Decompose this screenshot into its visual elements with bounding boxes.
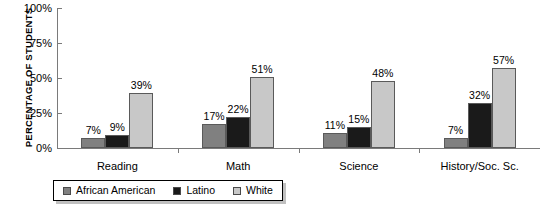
legend-swatch-icon — [63, 187, 71, 195]
y-axis-tick-label: 25% — [16, 108, 52, 119]
legend-item[interactable]: African American — [63, 185, 155, 196]
y-axis-tick-label: 100% — [16, 3, 52, 14]
bar-value-label: 32% — [469, 90, 490, 101]
bar-value-label: 11% — [325, 120, 345, 131]
bar-value-label: 17% — [204, 111, 225, 122]
x-axis-tick-mark — [299, 149, 300, 153]
plot-area: 7%9%39%Reading17%22%51%Math11%15%48%Scie… — [57, 8, 540, 148]
bar[interactable] — [129, 93, 153, 148]
bar[interactable] — [81, 138, 105, 148]
bar-value-label: 22% — [228, 104, 249, 115]
bar-value-label: 15% — [348, 114, 369, 125]
y-axis-tick-mark — [58, 8, 62, 9]
bar[interactable] — [371, 81, 395, 148]
chart-legend: African AmericanLatinoWhite — [53, 180, 283, 201]
bar[interactable] — [226, 117, 250, 148]
bar-value-label: 51% — [252, 64, 273, 75]
bar-value-label: 48% — [372, 68, 393, 79]
y-axis-tick-mark — [58, 113, 62, 114]
x-axis-category-label: Reading — [97, 160, 138, 172]
bar-value-label: 7% — [448, 125, 463, 136]
bar[interactable] — [468, 103, 492, 148]
x-axis-category-label: Math — [226, 160, 250, 172]
legend-label: White — [246, 185, 273, 196]
y-axis-tick-label: 75% — [16, 38, 52, 49]
legend-swatch-icon — [173, 187, 181, 195]
x-axis-category-label: Science — [339, 160, 378, 172]
legend-label: African American — [76, 185, 155, 196]
bar[interactable] — [347, 127, 371, 148]
y-axis-tick-mark — [58, 148, 62, 149]
x-axis-tick-mark — [419, 149, 420, 153]
bar-group: 11%15%48% — [323, 8, 395, 148]
bar[interactable] — [323, 133, 347, 148]
bar-chart: PERCENTAGE OF STUDENTS 0%25%50%75%100% 7… — [0, 0, 545, 215]
legend-item[interactable]: White — [233, 185, 273, 196]
x-axis-tick-mark — [178, 149, 179, 153]
bar-group: 17%22%51% — [202, 8, 274, 148]
y-axis-tick-labels: 0%25%50%75%100% — [12, 0, 52, 215]
legend-swatch-icon — [233, 187, 241, 195]
bar-value-label: 39% — [131, 80, 152, 91]
bar[interactable] — [444, 138, 468, 148]
legend-item[interactable]: Latino — [173, 185, 215, 196]
bar[interactable] — [250, 77, 274, 148]
bar-group: 7%9%39% — [81, 8, 153, 148]
bar-group: 7%32%57% — [444, 8, 516, 148]
y-axis-tick-mark — [58, 78, 62, 79]
y-axis-tick-label: 50% — [16, 73, 52, 84]
legend-label: Latino — [186, 185, 215, 196]
bar[interactable] — [492, 68, 516, 148]
bar-value-label: 57% — [493, 55, 514, 66]
y-axis-tick-mark — [58, 43, 62, 44]
bar[interactable] — [202, 124, 226, 148]
bar-value-label: 9% — [110, 122, 125, 133]
y-axis-tick-label: 0% — [16, 143, 52, 154]
x-axis-category-label: History/Soc. Sc. — [441, 160, 519, 172]
bar[interactable] — [105, 135, 129, 148]
bar-value-label: 7% — [86, 125, 101, 136]
